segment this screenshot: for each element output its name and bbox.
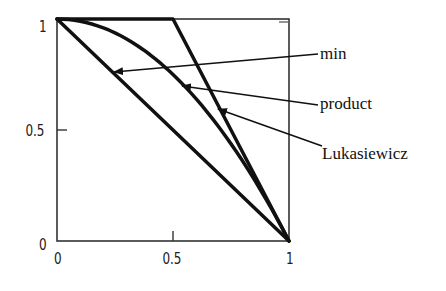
- series-min-line: [57, 19, 289, 241]
- y-tick-label-05: 0.5: [25, 122, 44, 140]
- label-product: product: [320, 94, 372, 114]
- lukasiewicz-arrow: [218, 109, 322, 146]
- x-tick-label-1: 1: [286, 250, 294, 268]
- x-tick-label-0: 0: [54, 250, 62, 268]
- x-tick-label-05: 0.5: [162, 250, 181, 268]
- label-min: min: [320, 44, 346, 64]
- product-arrow: [182, 86, 318, 105]
- min-arrow: [114, 54, 318, 72]
- y-tick-label-0: 0: [39, 236, 47, 254]
- y-tick-label-1: 1: [39, 18, 47, 36]
- label-lukasiewicz: Lukasiewicz: [322, 144, 408, 164]
